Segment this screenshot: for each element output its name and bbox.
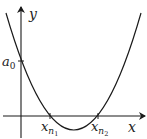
x-axis-label: x — [128, 119, 136, 135]
parabola-curve — [6, 13, 141, 130]
y-axis-label: y — [28, 6, 38, 22]
parabola-diagram: y x a0 xn1 xn2 — [0, 0, 147, 139]
a0-label: a0 — [2, 54, 16, 71]
root2-label: xn2 — [91, 119, 108, 138]
